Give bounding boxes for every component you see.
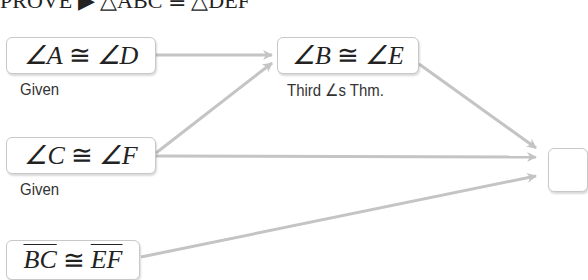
statement-box-angle-a-d: ∠A ≅ ∠D bbox=[6, 37, 156, 74]
statement-right: ∠E bbox=[365, 40, 404, 71]
statement-right: ∠D bbox=[97, 40, 139, 71]
statement-left: ∠B bbox=[292, 40, 331, 71]
arrow-bc-to-conclusion bbox=[141, 176, 536, 257]
congruent-symbol: ≅ bbox=[71, 140, 93, 171]
statement-left: ∠A bbox=[24, 40, 63, 71]
statement-box-segment-bc-ef: BC ≅ EF bbox=[6, 240, 140, 280]
arrow-c-to-b bbox=[156, 63, 272, 153]
statement-right: EF bbox=[91, 245, 123, 275]
arrow-c-to-conclusion bbox=[156, 156, 536, 157]
conclusion-box bbox=[548, 148, 588, 192]
congruent-symbol: ≅ bbox=[69, 40, 91, 71]
reason-label: Given bbox=[20, 80, 59, 100]
statement-left: BC bbox=[24, 245, 57, 275]
statement-right: ∠F bbox=[99, 140, 138, 171]
congruent-symbol: ≅ bbox=[63, 245, 85, 276]
arrow-b-to-conclusion bbox=[419, 64, 536, 148]
congruent-symbol: ≅ bbox=[337, 40, 359, 71]
statement-left: ∠C bbox=[24, 140, 64, 171]
reason-label: Given bbox=[20, 180, 59, 200]
statement-box-angle-c-f: ∠C ≅ ∠F bbox=[6, 137, 156, 174]
statement-box-angle-b-e: ∠B ≅ ∠E bbox=[277, 37, 419, 74]
reason-label: Third ∠s Thm. bbox=[287, 80, 384, 101]
